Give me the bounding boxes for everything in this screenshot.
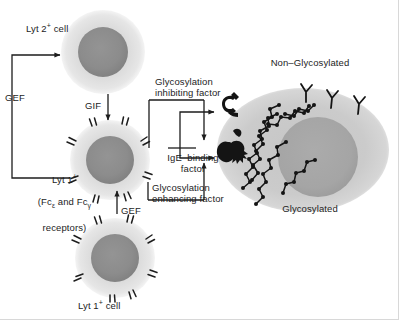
label-ige-binding-factor: IgE bindingfactor bbox=[160, 152, 226, 174]
label-gef-lower: GEF bbox=[121, 205, 141, 216]
label-gif: GIF bbox=[85, 100, 101, 111]
label-glycosylation-inhibiting-factor: Glycosylationinhibiting factor bbox=[155, 76, 221, 98]
label-lyt1-cell: Lyt 1+ cell bbox=[78, 297, 120, 311]
label-lyt2-cell: Lyt 2+ cell bbox=[26, 20, 68, 34]
label-lyt1-fc-receptors: Lyt 1+ (Fcε and Fcγ receptors) bbox=[18, 160, 100, 244]
lyt2-cell bbox=[61, 10, 145, 94]
label-gef-left: GEF bbox=[5, 92, 25, 103]
label-non-glycosylated: Non–Glycosylated bbox=[254, 57, 366, 68]
ige-binding-factor-hook-icon bbox=[222, 92, 239, 117]
arrow-to-target-upper bbox=[180, 112, 214, 148]
label-glycosylation-enhancing-factor: Glycosylationenhancing factor bbox=[152, 182, 224, 204]
label-glycosylated: Glycosylated bbox=[258, 203, 362, 214]
immunology-pathway-diagram: Lyt 2+ cell GEF GIF Glycosylationinhibit… bbox=[0, 0, 399, 320]
